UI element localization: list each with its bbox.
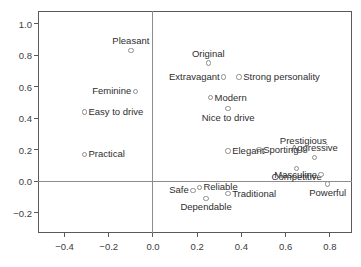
data-point-label: Practical [88,149,124,159]
y-axis-tick-label: 0.4 [4,113,32,124]
data-point-label: Traditional [232,189,276,199]
y-axis-tick [34,23,38,24]
plot-frame [38,11,352,233]
data-point-label: Safe [169,185,189,195]
data-point-label: Strong personality [243,72,320,82]
data-point-label: Dependable [180,202,231,212]
y-axis-tick [34,212,38,213]
zero-line-vertical [152,11,153,233]
x-axis-tick-label: −0.2 [99,241,118,252]
data-point-label: Extravagant [169,72,220,82]
y-axis-tick-label: 0.6 [4,81,32,92]
y-axis-tick-label: 1.0 [4,18,32,29]
data-point-label: Powerful [309,188,346,198]
y-axis-tick [34,86,38,87]
data-point-label: Original [192,49,225,59]
data-point-marker [133,89,139,95]
data-point-marker [203,196,209,202]
data-point-marker [128,48,134,54]
scatter-plot: −0.4−0.20.00.20.40.60.8−0.20.00.20.40.60… [0,0,361,267]
y-axis-tick [34,181,38,182]
data-point-marker [225,148,231,154]
y-axis-tick [34,118,38,119]
x-axis-tick-label: −0.4 [55,241,74,252]
x-axis-tick [329,233,330,237]
y-axis-tick [34,149,38,150]
data-point-label: Modern [214,93,246,103]
y-axis-tick-label: 0.0 [4,176,32,187]
data-point-marker [82,109,88,115]
x-axis-tick-label: 0.0 [146,241,159,252]
data-point-label: Sporting [263,145,298,155]
data-point-label: Pleasant [112,36,149,46]
x-axis-tick [64,233,65,237]
y-axis-tick [34,55,38,56]
x-axis-tick [197,233,198,237]
x-axis-tick-label: 0.4 [235,241,248,252]
x-axis-tick-label: 0.6 [279,241,292,252]
x-axis-tick [108,233,109,237]
y-axis-tick-label: 0.2 [4,144,32,155]
data-point-label: Easy to drive [88,107,143,117]
x-axis-tick-label: 0.2 [191,241,204,252]
y-axis-tick-label: −0.2 [4,207,32,218]
data-point-label: Masculine [274,170,317,180]
x-axis-tick [152,233,153,237]
data-point-marker [82,152,88,158]
data-point-marker [206,60,212,66]
x-axis-tick-label: 0.8 [323,241,336,252]
data-point-label: Feminine [92,86,131,96]
data-point-label: Nice to drive [202,113,255,123]
x-axis-tick [285,233,286,237]
data-point-marker [190,188,196,194]
x-axis-tick [241,233,242,237]
data-point-marker [236,74,242,80]
y-axis-tick-label: 0.8 [4,50,32,61]
data-point-label: Elegant [232,146,264,156]
